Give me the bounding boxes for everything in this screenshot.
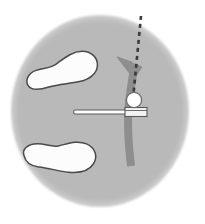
rod-end-block xyxy=(125,108,147,117)
joint-center-circle xyxy=(126,92,141,107)
figure-root xyxy=(0,0,205,224)
figure-svg xyxy=(0,0,205,224)
